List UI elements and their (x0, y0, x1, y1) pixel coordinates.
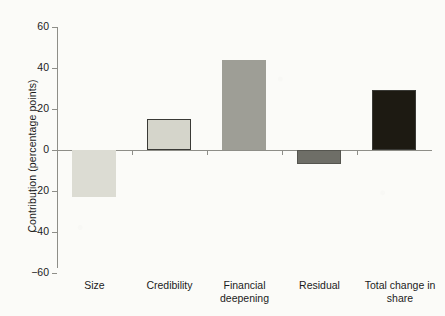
y-axis-spine (57, 27, 58, 268)
y-tick-label: −60 (9, 266, 49, 278)
bar-residual[interactable] (297, 150, 341, 164)
bar-total-change-in-share[interactable] (372, 90, 416, 150)
x-tick (207, 150, 208, 155)
y-tick-label: 60 (9, 20, 49, 32)
x-tick (282, 150, 283, 155)
x-label-residual: Residual (282, 279, 357, 292)
x-label-credibility: Credibility (127, 279, 212, 292)
bar-size[interactable] (72, 150, 116, 197)
x-tick (132, 150, 133, 155)
y-tick-label: 0 (9, 143, 49, 155)
bar-chart-figure: Contribution (percentage points) 60 40 2… (0, 0, 445, 316)
x-label-financial-deepening: Financial deepening (207, 279, 282, 305)
bar-financial-deepening[interactable] (222, 60, 266, 150)
y-tick-label: 40 (9, 61, 49, 73)
bar-credibility[interactable] (147, 119, 191, 150)
x-label-size: Size (57, 279, 132, 292)
plot-area: 60 40 20 0 −20 −40 −60 (57, 27, 432, 268)
x-label-total-change-in-share: Total change in share (353, 279, 445, 305)
y-tick-label: 20 (9, 102, 49, 114)
y-tick-label: −40 (9, 225, 49, 237)
y-tick-label: −20 (9, 184, 49, 196)
x-tick (357, 150, 358, 155)
